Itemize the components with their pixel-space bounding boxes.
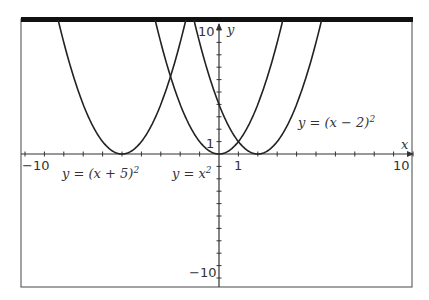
y-tick-10: 10 xyxy=(198,24,215,39)
y-tick-minus-10: −10 xyxy=(189,265,216,280)
curves xyxy=(58,20,321,154)
x-tick-10: 10 xyxy=(393,158,410,173)
x-tick-1: 1 xyxy=(234,158,242,173)
top-border-bar xyxy=(21,17,413,22)
y-axis-label: y xyxy=(227,22,234,37)
curve-2 xyxy=(194,20,322,154)
x-axis-label: x xyxy=(401,137,408,152)
y-tick-1: 1 xyxy=(206,136,214,151)
curve-0 xyxy=(58,20,186,154)
axes xyxy=(21,23,414,287)
curve-label-x-plus-5: y = (x + 5)2 xyxy=(62,165,139,181)
graph-plot xyxy=(0,0,429,300)
curve-label-x-minus-2: y = (x − 2)2 xyxy=(298,114,375,130)
curve-label-x-squared: y = x2 xyxy=(172,165,212,181)
x-tick-minus-10: −10 xyxy=(22,158,49,173)
